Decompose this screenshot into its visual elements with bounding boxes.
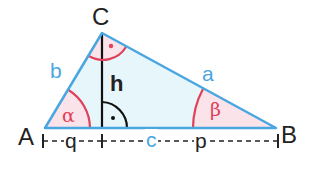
side-a-label: a — [202, 63, 214, 84]
right-angle-foot-dot — [111, 116, 115, 120]
segment-q-label: q — [64, 130, 78, 151]
right-angle-c-dot — [109, 44, 113, 48]
vertex-b-label: B — [281, 123, 297, 147]
side-b-label: b — [50, 60, 62, 81]
altitude-h-label: h — [110, 73, 123, 95]
segment-p-label: p — [194, 130, 208, 151]
vertex-c-label: C — [92, 5, 109, 29]
side-c-label: c — [145, 129, 158, 150]
angle-alpha-label: α — [62, 106, 75, 125]
angle-beta-label: β — [210, 100, 221, 119]
vertex-a-label: A — [18, 125, 34, 149]
